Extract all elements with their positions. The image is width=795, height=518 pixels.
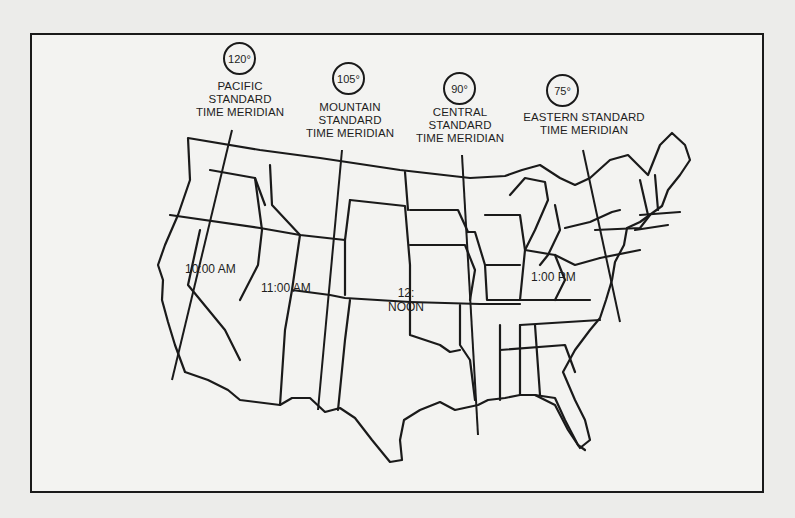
label-line: NOON: [388, 300, 424, 314]
meridian-120-line: [172, 130, 232, 380]
meridian-120-degree-badge: 120°: [223, 42, 256, 75]
label-line: TIME MERIDIAN: [518, 124, 650, 137]
degree-label: 105°: [337, 73, 360, 85]
label-line: STANDARD: [195, 93, 285, 106]
degree-label: 120°: [228, 53, 251, 65]
eastern-meridian-label: EASTERN STANDARD TIME MERIDIAN: [518, 111, 650, 137]
us-time-zone-map: [0, 0, 795, 518]
us-outline: [158, 133, 690, 462]
label-line: 12:: [388, 286, 424, 300]
pacific-meridian-label: PACIFIC STANDARD TIME MERIDIAN: [195, 80, 285, 119]
eastern-time-label: 1:00 PM: [531, 270, 576, 284]
central-time-label: 12: NOON: [388, 286, 424, 314]
meridian-75-degree-badge: 75°: [546, 74, 579, 107]
label-line: MOUNTAIN: [300, 101, 400, 114]
mountain-time-label: 11:00 AM: [261, 281, 311, 295]
degree-label: 75°: [554, 85, 571, 97]
degree-label: 90°: [451, 83, 468, 95]
label-line: PACIFIC: [195, 80, 285, 93]
meridian-90-line: [462, 155, 478, 435]
label-line: CENTRAL: [408, 106, 512, 119]
meridian-75-line: [583, 150, 620, 322]
label-line: STANDARD: [300, 114, 400, 127]
label-line: TIME MERIDIAN: [300, 127, 400, 140]
meridian-90-degree-badge: 90°: [443, 72, 476, 105]
label-line: TIME MERIDIAN: [195, 106, 285, 119]
meridian-105-line: [318, 150, 342, 410]
pacific-time-label: 10:00 AM: [185, 262, 236, 276]
mountain-meridian-label: MOUNTAIN STANDARD TIME MERIDIAN: [300, 101, 400, 140]
label-line: STANDARD: [408, 119, 512, 132]
central-meridian-label: CENTRAL STANDARD TIME MERIDIAN: [408, 106, 512, 145]
label-line: EASTERN STANDARD: [518, 111, 650, 124]
label-line: TIME MERIDIAN: [408, 132, 512, 145]
meridian-105-degree-badge: 105°: [332, 62, 365, 95]
